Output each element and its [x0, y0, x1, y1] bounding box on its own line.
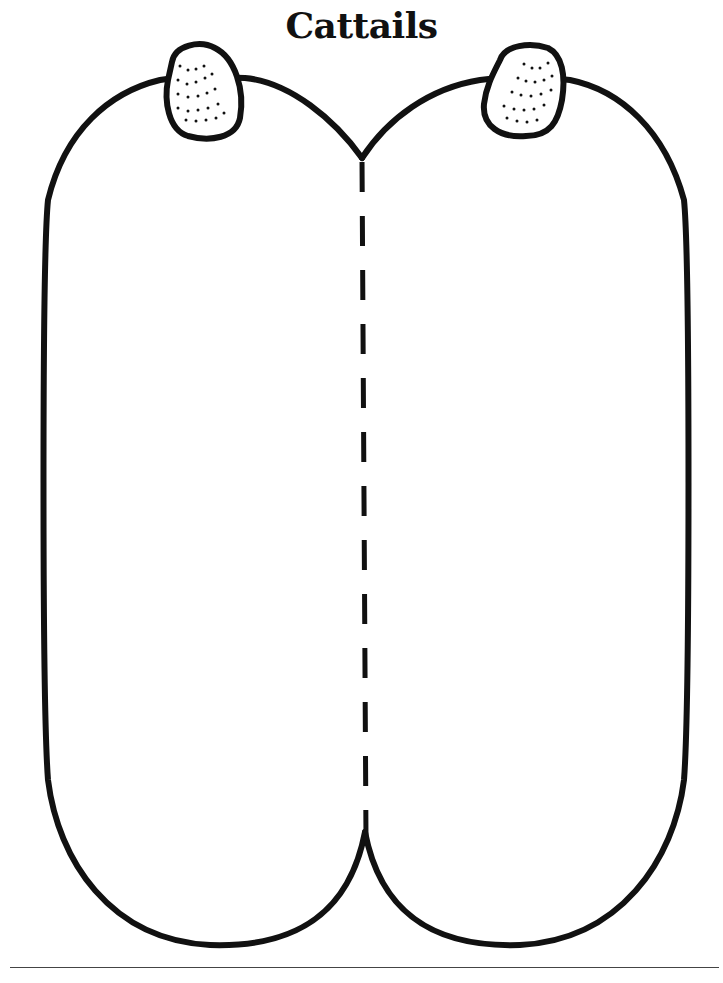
dashed-fold-line: [362, 158, 366, 840]
left-cattail-head: [167, 44, 242, 138]
bottom-rule-divider: [10, 967, 719, 968]
right-cattail-panel: [362, 77, 689, 945]
cattail-template-outline: [0, 0, 723, 983]
left-cattail-panel: [44, 77, 366, 945]
right-cattail-head: [484, 45, 564, 136]
